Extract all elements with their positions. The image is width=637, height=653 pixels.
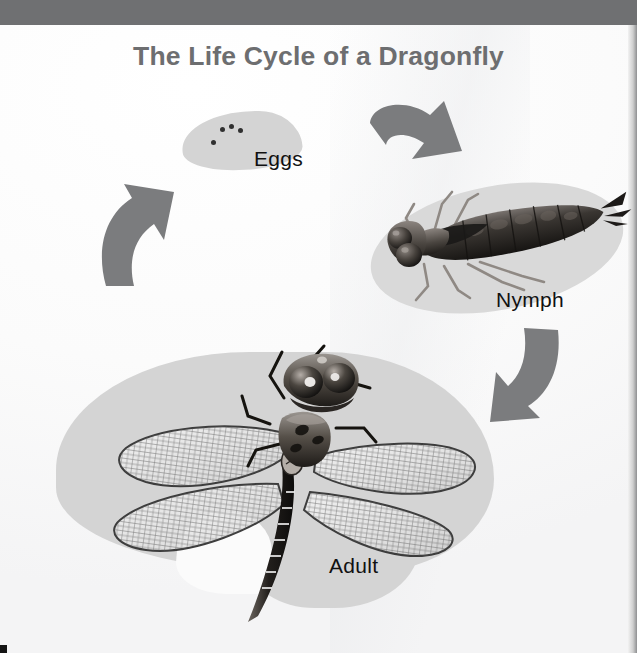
stage-label-eggs: Eggs [254,147,303,171]
wing-upper-left [119,426,286,486]
wing-lower-left [114,484,284,551]
arrow-adult-to-eggs-icon [86,180,194,292]
adult-dragonfly-illustration [34,332,520,632]
stage-label-adult: Adult [329,554,378,578]
page-title: The Life Cycle of a Dragonfly [0,41,637,72]
adult-head [283,354,358,412]
abdomen [248,450,302,622]
egg-dot [211,140,216,145]
top-gray-band [0,0,637,25]
dragonfly-life-cycle-poster: The Life Cycle of a Dragonfly Eggs [0,0,637,653]
corner-mark [0,645,7,653]
wing-upper-right [314,444,475,494]
egg-dot [220,127,225,132]
egg-dot [229,124,234,129]
stage-label-nymph: Nymph [496,288,564,312]
wing-lower-right [304,492,453,556]
egg-dot [238,128,243,133]
nymph-eye-right [396,243,422,267]
arrow-eggs-to-nymph-icon [358,95,478,187]
nymph-head [387,221,426,267]
right-edge-shadow [628,25,637,653]
